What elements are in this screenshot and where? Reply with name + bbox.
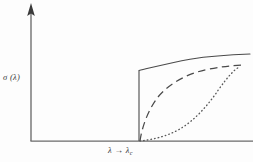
plot-canvas [0,0,253,162]
y-axis [27,3,35,141]
series-dashed-curve [140,65,241,141]
series-dotted-curve [140,67,239,141]
x-axis-label: λ → λc [108,145,133,156]
y-axis-label: σ (λ) [3,72,20,82]
figure-container: σ (λ) λ → λc [0,0,253,162]
series-solid-curve [139,54,250,71]
x-axis-label-subscript: c [130,149,133,156]
x-axis-label-main: λ → λ [108,145,130,155]
